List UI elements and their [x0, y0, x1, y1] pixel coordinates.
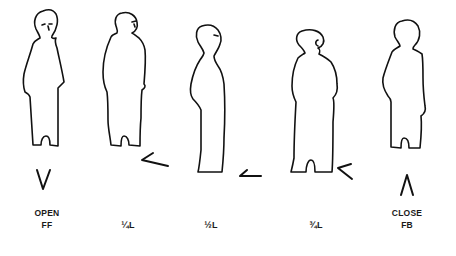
label-quarter-left: ¼L	[98, 219, 158, 231]
figure-three-quarter-left-outline	[291, 30, 337, 172]
label-open: OPEN FF	[17, 207, 77, 231]
label-three-quarter-left-text: ¾L	[286, 219, 346, 231]
figure-half-left	[190, 25, 261, 176]
figure-open-foot-marker	[37, 170, 50, 189]
figure-three-quarter-left	[291, 30, 352, 179]
label-close-line1: CLOSE	[377, 207, 437, 219]
label-open-line1: OPEN	[17, 207, 77, 219]
figure-close-outline	[383, 20, 426, 148]
figure-three-quarter-left-ear	[316, 40, 318, 46]
figure-close	[383, 20, 426, 195]
figure-quarter-left-nose	[134, 24, 135, 27]
figure-quarter-left-eye	[132, 21, 136, 22]
figure-half-left-eye	[214, 35, 218, 36]
figure-open-outline	[23, 10, 64, 146]
figure-half-left-outline	[190, 25, 224, 172]
label-three-quarter-left: ¾L	[286, 219, 346, 231]
figure-open-nose	[48, 26, 49, 30]
label-half-left-text: ½L	[181, 219, 241, 231]
figure-open-brow-left	[42, 24, 45, 25]
diagram-canvas: OPEN FF ¼L ½L ¾L CLOSE FB	[0, 0, 456, 256]
label-close: CLOSE FB	[377, 207, 437, 231]
label-half-left: ½L	[181, 219, 241, 231]
figure-half-left-foot-marker	[240, 170, 261, 176]
figure-open	[23, 10, 64, 189]
figure-quarter-left	[103, 13, 168, 166]
figure-quarter-left-outline	[103, 13, 145, 146]
label-close-line2: FB	[377, 219, 437, 231]
figure-close-foot-marker	[401, 175, 413, 195]
label-open-line2: FF	[17, 219, 77, 231]
label-quarter-left-text: ¼L	[98, 219, 158, 231]
figure-three-quarter-left-foot-marker	[338, 164, 352, 179]
figure-quarter-left-foot-marker	[142, 153, 168, 166]
